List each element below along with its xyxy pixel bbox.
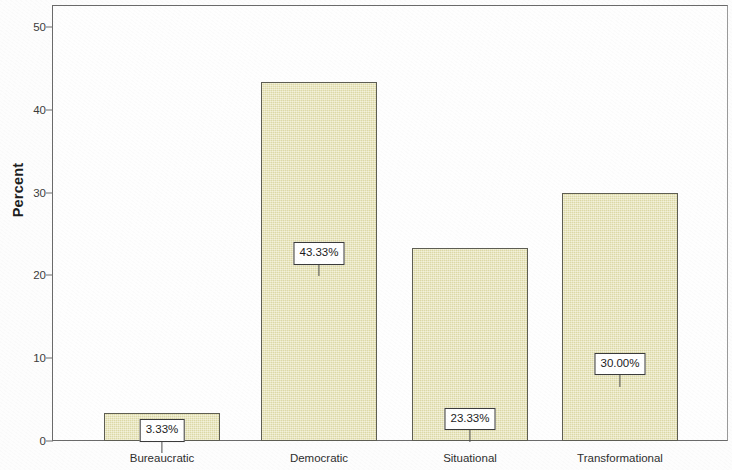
- y-tick-label: 0: [16, 435, 46, 447]
- y-tick-mark: [46, 192, 53, 193]
- y-tick-mark: [46, 275, 53, 276]
- y-tick-mark: [46, 109, 53, 110]
- y-tick-label: 10: [16, 352, 46, 364]
- x-category-label: Bureaucratic: [130, 452, 195, 464]
- bar-chart: Percent 01020304050 3.33%43.33%23.33%30.…: [0, 0, 732, 470]
- y-tick-mark: [46, 441, 53, 442]
- plot-area: [52, 5, 728, 441]
- y-tick-label: 20: [16, 269, 46, 281]
- y-tick-mark: [46, 27, 53, 28]
- y-axis-ticks: 01020304050: [12, 0, 46, 470]
- x-category-label: Democratic: [290, 452, 348, 464]
- x-category-label: Transformational: [577, 452, 663, 464]
- x-category-label: Situational: [443, 452, 497, 464]
- y-tick-label: 50: [16, 21, 46, 33]
- y-tick-label: 40: [16, 104, 46, 116]
- y-tick-mark: [46, 358, 53, 359]
- y-tick-label: 30: [16, 187, 46, 199]
